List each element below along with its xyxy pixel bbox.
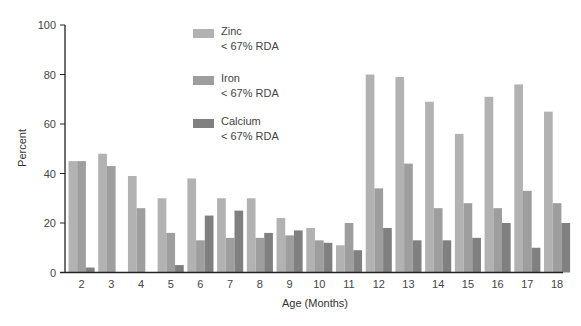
bar-calcium-9 [294, 230, 303, 272]
bar-calcium-16 [502, 223, 511, 273]
bar-zinc-7 [217, 198, 226, 272]
bar-zinc-10 [306, 228, 315, 273]
legend-sublabel-calcium: < 67% RDA [221, 129, 279, 144]
bar-zinc-4 [128, 176, 137, 273]
y-axis-title: Percent [16, 129, 28, 167]
x-tick-label: 14 [432, 278, 444, 290]
legend-swatch-zinc [193, 29, 214, 38]
bar-iron-10 [315, 240, 324, 272]
bar-iron-16 [493, 208, 502, 272]
bar-iron-2 [77, 161, 86, 272]
bar-iron-17 [523, 191, 532, 273]
bar-iron-11 [345, 223, 354, 273]
bar-calcium-12 [383, 228, 392, 273]
bar-calcium-14 [443, 240, 452, 272]
legend-item-iron: Iron < 67% RDA [193, 71, 333, 107]
x-axis-title: Age (Months) [282, 297, 348, 309]
bar-calcium-15 [472, 238, 481, 273]
bar-iron-15 [464, 203, 473, 272]
y-tick-label: 0 [50, 267, 56, 279]
x-tick-label: 8 [257, 278, 263, 290]
bar-iron-4 [137, 208, 146, 272]
bar-zinc-15 [455, 134, 464, 273]
bar-calcium-2 [86, 268, 95, 273]
bar-zinc-14 [425, 102, 434, 273]
x-tick-label: 17 [521, 278, 533, 290]
bar-zinc-6 [187, 178, 196, 272]
y-tick-label: 80 [44, 69, 56, 81]
x-tick-label: 10 [313, 278, 325, 290]
bar-iron-14 [434, 208, 443, 272]
bar-zinc-9 [277, 218, 286, 272]
bar-iron-7 [226, 238, 235, 273]
x-tick-label: 15 [462, 278, 474, 290]
legend-swatch-calcium [193, 119, 214, 128]
bar-zinc-2 [69, 161, 78, 272]
x-tick-label: 3 [108, 278, 114, 290]
bar-zinc-17 [514, 84, 523, 272]
bar-iron-9 [285, 235, 294, 272]
bar-zinc-16 [485, 97, 494, 273]
x-tick-label: 2 [78, 278, 84, 290]
y-axis: 020406080100 [38, 19, 65, 279]
x-tick-label: 6 [197, 278, 203, 290]
x-tick-label: 12 [373, 278, 385, 290]
bar-iron-5 [166, 233, 175, 273]
legend-item-calcium: Calcium < 67% RDA [193, 114, 333, 150]
bar-calcium-10 [324, 243, 333, 273]
y-tick-label: 100 [38, 19, 56, 31]
x-tick-label: 5 [168, 278, 174, 290]
x-axis: 23456789101112131415161718 [60, 273, 563, 291]
x-tick-label: 13 [402, 278, 414, 290]
bar-iron-13 [404, 164, 413, 273]
x-tick-label: 16 [492, 278, 504, 290]
bar-calcium-7 [235, 211, 244, 273]
bar-calcium-11 [353, 250, 362, 272]
legend-item-zinc: Zinc < 67% RDA [193, 24, 333, 60]
bar-zinc-8 [247, 198, 256, 272]
x-tick-label: 18 [551, 278, 563, 290]
bar-calcium-8 [264, 233, 273, 273]
y-tick-label: 20 [44, 217, 56, 229]
legend-label-iron: Iron [221, 71, 279, 86]
bar-calcium-17 [532, 248, 541, 273]
bar-zinc-18 [544, 112, 553, 273]
bar-iron-12 [374, 188, 383, 272]
bar-calcium-13 [413, 240, 422, 272]
legend-sublabel-iron: < 67% RDA [221, 86, 279, 101]
bar-calcium-18 [561, 223, 570, 273]
bar-iron-6 [196, 240, 205, 272]
bar-iron-8 [256, 238, 265, 273]
legend-swatch-iron [193, 76, 214, 85]
bar-iron-18 [553, 203, 562, 272]
legend-label-calcium: Calcium [221, 114, 279, 129]
bar-calcium-5 [175, 265, 184, 272]
bar-zinc-12 [366, 75, 375, 273]
y-tick-label: 60 [44, 118, 56, 130]
bar-iron-3 [107, 166, 116, 272]
legend-label-zinc: Zinc [221, 24, 279, 39]
x-tick-label: 9 [287, 278, 293, 290]
y-tick-label: 40 [44, 168, 56, 180]
bar-calcium-6 [205, 216, 214, 273]
bar-zinc-13 [395, 77, 404, 273]
x-tick-label: 4 [138, 278, 144, 290]
bar-zinc-3 [98, 154, 107, 273]
x-tick-label: 7 [227, 278, 233, 290]
x-tick-label: 11 [343, 278, 354, 290]
bar-zinc-5 [158, 198, 167, 272]
bar-zinc-11 [336, 245, 345, 272]
legend-sublabel-zinc: < 67% RDA [221, 39, 279, 54]
